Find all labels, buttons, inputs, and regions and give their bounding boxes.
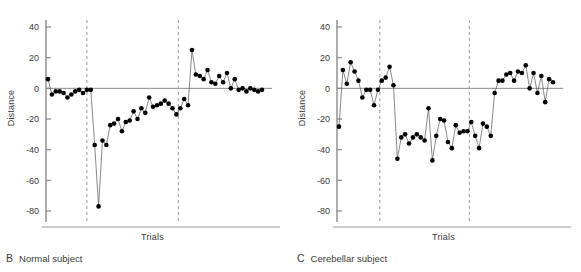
caption-letter-b: B <box>6 252 13 264</box>
svg-text:-80: -80 <box>317 206 330 216</box>
caption-text-b: Normal subject <box>19 253 82 264</box>
panel-b-normal-subject: Distance 40200-20-40-60-80 Trials BNorma… <box>0 0 290 272</box>
caption-panel-c: CCerebellar subject <box>297 252 387 264</box>
panel-c-cerebellar-subject: Distance 40200-20-40-60-80 Trials CCereb… <box>291 0 581 272</box>
svg-text:-60: -60 <box>26 176 39 186</box>
svg-text:-80: -80 <box>26 206 39 216</box>
figure-container: Distance 40200-20-40-60-80 Trials BNorma… <box>0 0 581 272</box>
svg-text:40: 40 <box>29 22 39 32</box>
svg-text:0: 0 <box>34 84 39 94</box>
svg-text:-40: -40 <box>26 145 39 155</box>
plot-area-panel-b: 40200-20-40-60-80 <box>0 0 290 240</box>
svg-text:20: 20 <box>29 53 39 63</box>
caption-panel-b: BNormal subject <box>6 252 82 264</box>
x-axis-label-panel-b: Trials <box>45 232 260 242</box>
svg-text:-60: -60 <box>317 176 330 186</box>
svg-text:40: 40 <box>320 22 330 32</box>
plot-area-panel-c: 40200-20-40-60-80 <box>291 0 581 240</box>
svg-text:-20: -20 <box>317 114 330 124</box>
caption-text-c: Cerebellar subject <box>311 253 388 264</box>
svg-text:-20: -20 <box>26 114 39 124</box>
svg-text:-40: -40 <box>317 145 330 155</box>
x-axis-label-panel-c: Trials <box>336 232 551 242</box>
svg-text:0: 0 <box>325 84 330 94</box>
caption-letter-c: C <box>297 252 305 264</box>
svg-text:20: 20 <box>320 53 330 63</box>
